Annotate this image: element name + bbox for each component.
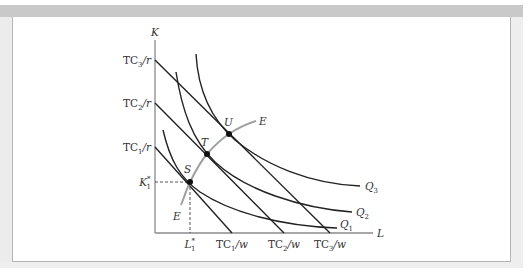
tangency-point-s: [187, 179, 193, 185]
k-axis-label: K: [150, 26, 160, 38]
expansion-path: [181, 121, 256, 205]
l-axis-label: L: [376, 227, 384, 239]
point-label-u: U: [224, 116, 234, 128]
y-tick-tc1-r: TC1/r: [123, 141, 152, 156]
cost-minimization-diagram: K L TC3/r TC2/r TC1/r K*1 L*1 TC1/w TC2/…: [0, 0, 528, 278]
expansion-path-label-start: E: [172, 210, 181, 222]
x-tick-tc2-w: TC2/w: [268, 238, 300, 253]
expansion-path-label-end: E: [258, 115, 267, 127]
point-label-t: T: [201, 136, 209, 148]
x-tick-l1-star: L*1: [184, 237, 196, 253]
tangency-point-u: [226, 131, 232, 137]
x-tick-tc3-w: TC3/w: [314, 238, 346, 253]
y-tick-tc2-r: TC2/r: [123, 97, 152, 112]
isoquant-label-q3: Q3: [365, 180, 378, 195]
isocost-line-tc1: [155, 147, 232, 233]
isoquant-label-q1: Q1: [340, 218, 353, 233]
x-tick-tc1-w: TC1/w: [216, 238, 248, 253]
isoquant-label-q2: Q2: [356, 206, 369, 221]
y-tick-tc3-r: TC3/r: [123, 54, 152, 69]
y-tick-k1-star: K*1: [138, 175, 151, 191]
tangency-point-t: [204, 151, 210, 157]
point-label-s: S: [184, 163, 191, 175]
